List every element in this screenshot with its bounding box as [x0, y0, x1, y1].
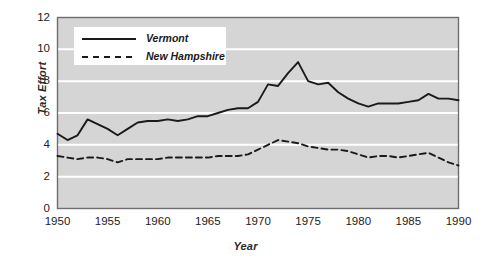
- plot-area: [0, 0, 491, 269]
- tax-effort-line-chart: Tax Effort Year 024681012 19501955196019…: [0, 0, 491, 269]
- legend-label-vermont: Vermont: [146, 32, 188, 44]
- legend-label-new-hampshire: New Hampshire: [146, 50, 225, 62]
